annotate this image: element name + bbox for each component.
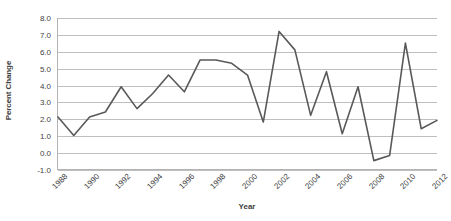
- y-axis-tick-label: 2.0: [40, 115, 51, 124]
- y-axis-tick-label: -1.0: [37, 166, 51, 175]
- y-axis-tick-label: 6.0: [40, 47, 51, 56]
- x-axis-tick-label: 1990: [82, 172, 101, 191]
- y-axis-tick-label: 3.0: [40, 98, 51, 107]
- y-axis-tick-label: 1.0: [40, 132, 51, 141]
- x-axis-title: Year: [57, 202, 437, 211]
- x-axis-tick-label: 2000: [240, 172, 259, 191]
- series-line: [58, 18, 437, 169]
- x-axis-tick-label: 2006: [335, 172, 354, 191]
- x-axis-tick-label: 1988: [50, 172, 69, 191]
- x-axis-tick-label: 1996: [177, 172, 196, 191]
- x-axis-tick-labels: 1988199019921994199619982000200220042006…: [57, 170, 437, 200]
- y-axis-tick-label: 0.0: [40, 149, 51, 158]
- x-axis-tick-label: 1994: [145, 172, 164, 191]
- y-axis-tick-labels: 8.07.06.05.04.03.02.01.00.0-1.0: [18, 18, 54, 170]
- y-axis-title: Percent Change: [0, 0, 18, 180]
- x-axis-tick-label: 2002: [272, 172, 291, 191]
- y-axis-tick-label: 8.0: [40, 14, 51, 23]
- y-axis-tick-label: 7.0: [40, 30, 51, 39]
- plot-area: [57, 18, 437, 170]
- data-line: [58, 31, 437, 160]
- y-axis-tick-label: 5.0: [40, 64, 51, 73]
- x-axis-tick-label: 1992: [114, 172, 133, 191]
- x-axis-tick-label: 2012: [430, 172, 449, 191]
- x-axis-tick-label: 2008: [367, 172, 386, 191]
- x-axis-tick-label: 1998: [209, 172, 228, 191]
- y-axis-title-label: Percent Change: [5, 60, 14, 120]
- line-chart: Percent Change 8.07.06.05.04.03.02.01.00…: [0, 0, 451, 221]
- x-axis-tick-label: 2010: [399, 172, 418, 191]
- y-axis-tick-label: 4.0: [40, 81, 51, 90]
- x-axis-tick-label: 2004: [304, 172, 323, 191]
